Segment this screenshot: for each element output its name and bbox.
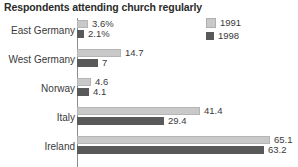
bar-ireland-1998 <box>77 146 264 154</box>
bar-ireland-1991 <box>77 136 270 144</box>
category-label-west-germany: West Germany <box>9 54 76 65</box>
bar-value-norway-1991: 4.6 <box>95 78 108 86</box>
category-label-norway: Norway <box>41 83 75 94</box>
bar-value-east-germany-1991: 3.6% <box>92 20 114 28</box>
plot-area: East Germany 3.6% 2.1% West Germany 14.7… <box>77 18 298 167</box>
bar-east-germany-1991 <box>77 20 88 28</box>
bar-norway-1998 <box>77 88 89 96</box>
category-label-east-germany: East Germany <box>11 25 75 36</box>
bar-east-germany-1998 <box>77 30 84 38</box>
bar-value-east-germany-1998: 2.1% <box>88 30 110 38</box>
bar-west-germany-1998 <box>77 59 98 67</box>
bar-norway-1991 <box>77 78 91 86</box>
category-label-ireland: Ireland <box>44 141 75 152</box>
bar-italy-1998 <box>77 117 164 125</box>
bar-value-west-germany-1998: 7 <box>102 59 107 67</box>
category-label-italy: Italy <box>57 112 75 123</box>
bar-west-germany-1991 <box>77 49 121 57</box>
bar-italy-1991 <box>77 107 200 115</box>
chart-title: Respondents attending church regularly <box>4 1 202 13</box>
bar-value-west-germany-1991: 14.7 <box>125 49 144 57</box>
bar-value-norway-1998: 4.1 <box>93 88 106 96</box>
bar-chart: Respondents attending church regularly 1… <box>0 0 298 167</box>
bar-value-italy-1998: 29.4 <box>168 117 187 125</box>
bar-value-italy-1991: 41.4 <box>204 107 223 115</box>
